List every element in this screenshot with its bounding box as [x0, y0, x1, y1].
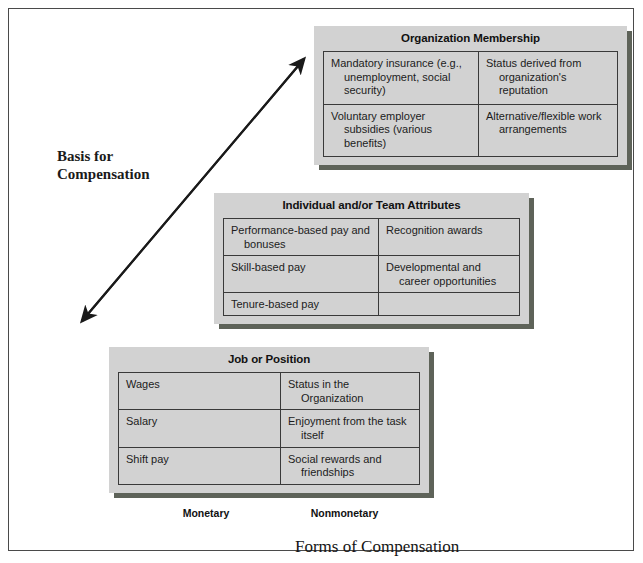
- cell-monetary: Tenure-based pay: [224, 293, 379, 316]
- cell-monetary: Skill-based pay: [224, 256, 379, 292]
- cell-monetary: Voluntary employer subsidies (various be…: [324, 105, 479, 157]
- cell-monetary: Salary: [119, 410, 281, 446]
- box-grid: Wages Status in the Organization Salary …: [118, 372, 420, 485]
- cell-monetary: Performance-based pay and bonuses: [224, 219, 379, 255]
- table-row: Voluntary employer subsidies (various be…: [324, 105, 617, 157]
- cell-nonmonetary: Status in the Organization: [281, 373, 419, 409]
- cell-monetary: Mandatory insurance (e.g., unemployment,…: [324, 52, 479, 104]
- box-grid: Mandatory insurance (e.g., unemployment,…: [323, 51, 618, 157]
- figure-border: Basis for Compensation Organization Memb…: [8, 8, 634, 551]
- box-grid: Performance-based pay and bonuses Recogn…: [223, 218, 520, 316]
- table-row: Wages Status in the Organization: [119, 373, 419, 410]
- box-individual-team-attributes: Individual and/or Team Attributes Perfor…: [214, 193, 529, 324]
- table-row: Mandatory insurance (e.g., unemployment,…: [324, 52, 617, 105]
- cell-nonmonetary: Alternative/flexible work arrangements: [479, 105, 617, 157]
- cell-nonmonetary: Enjoyment from the task itself: [281, 410, 419, 446]
- cell-nonmonetary: Developmental and career opportunities: [379, 256, 519, 292]
- box-job-or-position: Job or Position Wages Status in the Orga…: [109, 347, 429, 493]
- column-label-nonmonetary: Nonmonetary: [287, 507, 402, 519]
- box-title: Individual and/or Team Attributes: [214, 193, 529, 217]
- figure-caption: Forms of Compensation: [295, 537, 459, 557]
- cell-monetary: Shift pay: [119, 448, 281, 484]
- box-title: Job or Position: [109, 347, 429, 371]
- cell-nonmonetary: Status derived from organization's reput…: [479, 52, 617, 104]
- table-row: Performance-based pay and bonuses Recogn…: [224, 219, 519, 256]
- cell-nonmonetary: Social rewards and friendships: [281, 448, 419, 484]
- table-row: Shift pay Social rewards and friendships: [119, 448, 419, 484]
- cell-nonmonetary: Recognition awards: [379, 219, 519, 255]
- cell-monetary: Wages: [119, 373, 281, 409]
- table-row: Skill-based pay Developmental and career…: [224, 256, 519, 293]
- box-organization-membership: Organization Membership Mandatory insura…: [314, 26, 627, 165]
- table-row: Salary Enjoyment from the task itself: [119, 410, 419, 447]
- axis-label-basis-for-compensation: Basis for Compensation: [57, 147, 150, 183]
- table-row: Tenure-based pay: [224, 293, 519, 316]
- column-label-monetary: Monetary: [151, 507, 261, 519]
- cell-nonmonetary: [379, 293, 519, 316]
- box-title: Organization Membership: [314, 26, 627, 50]
